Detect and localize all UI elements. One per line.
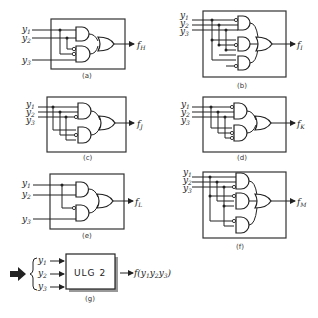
ulg-output: f(y1y2y3) — [133, 268, 172, 279]
svg-text:y3: y3 — [37, 281, 47, 292]
svg-text:fM: fM — [296, 197, 307, 208]
caption-g: (g) — [85, 295, 95, 303]
panel-e: y1 y2 y3 fL (e) — [21, 174, 142, 240]
svg-text:y1: y1 — [21, 178, 31, 189]
panel-g: y1 y2 y3 ULG 2 f(y1y2y3) (g) — [10, 254, 172, 303]
caption-f: (f) — [236, 243, 244, 251]
svg-text:fK: fK — [296, 119, 305, 130]
panel-f: y1 y2 y3 fM (f) — [182, 167, 307, 251]
arrow-right-icon — [10, 267, 26, 281]
caption-a: (a) — [82, 72, 92, 80]
ulg-label: ULG 2 — [74, 268, 106, 278]
svg-text:y2: y2 — [37, 268, 47, 279]
panel-d: y1 y2 y3 fK (d) — [180, 97, 305, 162]
svg-text:fL: fL — [134, 197, 142, 208]
caption-c: (c) — [83, 154, 93, 162]
svg-text:y3: y3 — [21, 214, 31, 225]
logic-diagram: y1 y2 y3 fH (a) y1 y2 y3 — [0, 0, 318, 318]
panel-a: y1 y2 y3 fH (a) — [21, 19, 146, 80]
caption-e: (e) — [82, 232, 92, 240]
svg-text:fI: fI — [296, 40, 303, 51]
svg-text:y1: y1 — [37, 255, 47, 266]
caption-d: (d) — [237, 154, 247, 162]
caption-b: (b) — [237, 82, 247, 90]
panel-b: y1 y2 y3 fI (b) — [179, 10, 303, 90]
svg-text:fJ: fJ — [136, 119, 143, 131]
panel-c: y1 y2 y3 fJ (c) — [25, 97, 143, 162]
svg-text:fH: fH — [136, 40, 146, 51]
svg-text:y3: y3 — [21, 55, 31, 66]
svg-text:y2: y2 — [21, 189, 31, 200]
